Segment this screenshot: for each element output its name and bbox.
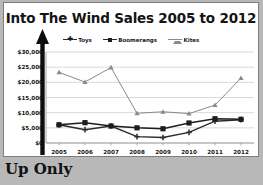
- svg-text:$20,000: $20,000: [18, 79, 44, 85]
- svg-text:2011: 2011: [207, 149, 223, 155]
- chart-series-layer: [56, 65, 244, 140]
- svg-text:$5,000: $5,000: [21, 125, 43, 131]
- caption-text: Up Only: [5, 160, 72, 178]
- chart-y-axis-labels: $0$5,000$10,000$15,000$20,000$25,000$30,…: [18, 49, 44, 146]
- svg-text:$10,000: $10,000: [18, 110, 44, 116]
- svg-text:2010: 2010: [181, 149, 197, 155]
- chart-plot-area: $0$5,000$10,000$15,000$20,000$25,000$30,…: [4, 3, 260, 158]
- svg-text:2005: 2005: [51, 149, 67, 155]
- chart-card: Into The Wind Sales 2005 to 2012 Toys Bo…: [4, 3, 258, 156]
- svg-text:2006: 2006: [77, 149, 93, 155]
- svg-text:$25,000: $25,000: [18, 64, 44, 70]
- svg-text:$30,000: $30,000: [18, 49, 44, 55]
- svg-text:2008: 2008: [129, 149, 145, 155]
- chart-x-axis-labels: 20052006200720082009201020112012: [51, 149, 249, 155]
- up-arrow-overlay-icon: [36, 29, 49, 155]
- svg-text:2007: 2007: [103, 149, 119, 155]
- chart-screenshot: Into The Wind Sales 2005 to 2012 Toys Bo…: [0, 0, 263, 185]
- svg-text:2009: 2009: [155, 149, 171, 155]
- svg-text:2012: 2012: [233, 149, 249, 155]
- chart-frame: Into The Wind Sales 2005 to 2012 Toys Bo…: [3, 2, 259, 157]
- svg-text:$15,000: $15,000: [18, 95, 44, 101]
